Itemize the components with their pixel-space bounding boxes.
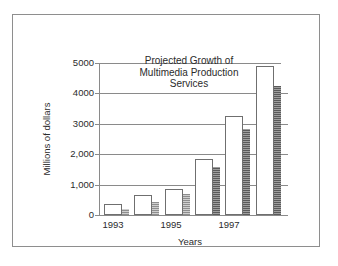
- right-tick-1000: [281, 185, 288, 186]
- right-tick-4000: [281, 93, 288, 94]
- chart-title-line-3: Services: [109, 78, 269, 90]
- x-axis-title: Years: [99, 236, 281, 247]
- chart-title-line-1: Projected Growth of: [109, 55, 269, 67]
- bar-side-1996: [213, 167, 220, 215]
- bar-face-1995[interactable]: [165, 189, 183, 215]
- figure-frame: Millions of dollars 5000: [12, 14, 320, 247]
- x-tick-label-1997: 1997: [218, 219, 239, 230]
- y-axis-title: Millions of dollars: [41, 63, 53, 215]
- x-tick-label-1995: 1995: [160, 219, 181, 230]
- chart-title-line-2: Multimedia Production: [109, 67, 269, 79]
- y-axis-line: [99, 63, 100, 215]
- bar-side-1997: [243, 129, 250, 215]
- bar-side-1993: [122, 209, 129, 215]
- bar-face-1993[interactable]: [104, 204, 122, 215]
- y-tick-mark-5000: [95, 63, 99, 64]
- y-tick-label-1000: 1,000: [70, 180, 94, 190]
- right-tick-2000: [281, 154, 288, 155]
- bar-1998[interactable]: [256, 63, 281, 215]
- y-tick-mark-2000: [95, 154, 99, 155]
- chart-title: Projected Growth of Multimedia Productio…: [109, 55, 269, 90]
- right-tick-0: [281, 215, 288, 216]
- bar-face-1997[interactable]: [225, 116, 243, 215]
- y-tick-label-4000: 4000: [73, 89, 94, 99]
- x-tick-label-1993: 1993: [102, 219, 123, 230]
- y-tick-label-5000: 5000: [73, 58, 94, 68]
- bar-face-1994[interactable]: [134, 195, 152, 215]
- y-tick-mark-0: [95, 215, 99, 216]
- y-tick-mark-1000: [95, 185, 99, 186]
- bar-face-1998[interactable]: [256, 66, 274, 215]
- x-axis-line: [97, 215, 283, 216]
- bar-face-1996[interactable]: [195, 159, 213, 215]
- y-tick-mark-4000: [95, 93, 99, 94]
- y-tick-label-0: 0: [89, 210, 94, 220]
- bar-side-1998: [274, 86, 281, 215]
- y-tick-label-3000: 3000: [73, 119, 94, 129]
- bar-side-1994: [152, 202, 159, 215]
- right-tick-3000: [281, 124, 288, 125]
- chart-figure: Millions of dollars 5000: [0, 0, 338, 266]
- bar-side-1995: [183, 194, 190, 215]
- y-tick-mark-3000: [95, 124, 99, 125]
- y-tick-label-2000: 2,000: [70, 149, 94, 159]
